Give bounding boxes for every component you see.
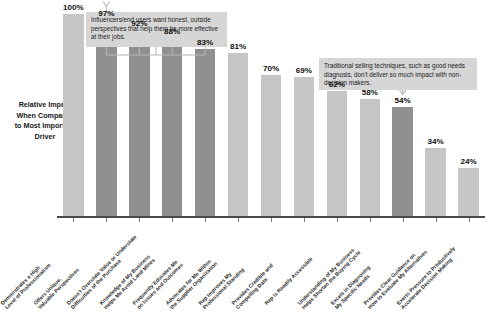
x-axis-tick: [139, 218, 140, 222]
x-axis-tick: [469, 218, 470, 222]
x-axis-tick: [73, 218, 74, 222]
x-axis-tick: [370, 218, 371, 222]
x-axis-tick: [403, 218, 404, 222]
x-axis-tick: [106, 218, 107, 222]
x-axis-tick: [238, 218, 239, 222]
bar-chart: Relative Impact When Compared to Most Im…: [0, 0, 488, 330]
bar-value-label: 62%: [321, 80, 353, 89]
bar-value-label: 88%: [156, 27, 188, 36]
bar-value-label: 34%: [419, 137, 451, 146]
bar-value-label: 97%: [90, 9, 122, 18]
bar-value-label: 83%: [189, 38, 221, 47]
x-axis-tick: [436, 218, 437, 222]
bar: [63, 14, 83, 217]
bar-value-label: 58%: [354, 88, 386, 97]
x-axis-tick: [271, 218, 272, 222]
bar-value-label: 69%: [288, 66, 320, 75]
bar-value-label: 92%: [123, 19, 155, 28]
x-axis-tick: [337, 218, 338, 222]
bar-value-label: 100%: [57, 3, 89, 12]
bar-value-label: 24%: [452, 157, 484, 166]
x-axis-tick: [172, 218, 173, 222]
x-axis-tick: [205, 218, 206, 222]
x-axis-tick: [304, 218, 305, 222]
bar-value-label: 81%: [222, 42, 254, 51]
bar-value-label: 54%: [386, 96, 418, 105]
bar-value-label: 70%: [255, 64, 287, 73]
